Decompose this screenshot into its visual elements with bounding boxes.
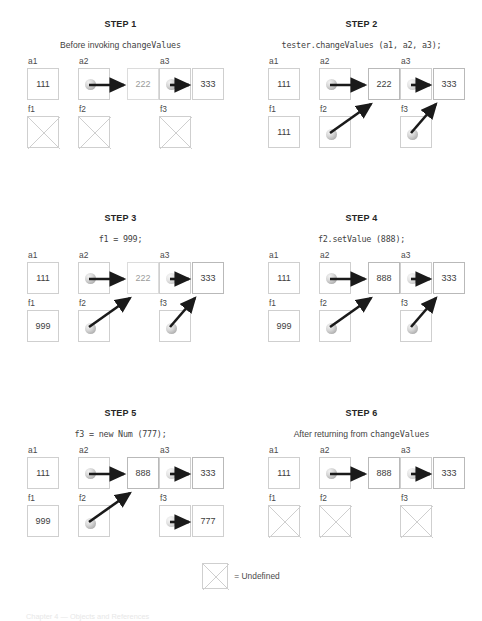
reference-ball-icon bbox=[166, 273, 177, 284]
box-a3-value: 333 bbox=[193, 69, 223, 99]
undefined-cross-icon bbox=[320, 506, 352, 538]
box-a1-value: 111 bbox=[269, 263, 299, 293]
box-f1-undefined bbox=[27, 116, 59, 148]
reference-ball-icon bbox=[166, 468, 177, 479]
box-f2-ref bbox=[319, 310, 351, 342]
box-f2-undefined bbox=[78, 116, 110, 148]
label-f1: f1 bbox=[269, 493, 276, 503]
panel-title: STEP 2 bbox=[241, 18, 482, 30]
box-a2-object: 888 bbox=[368, 262, 400, 294]
label-a2: a2 bbox=[79, 56, 88, 66]
diagram-step-4: a1 a2 a3 111 888 333 f1 f2 f3 999 bbox=[241, 250, 482, 354]
box-f2-ref bbox=[319, 116, 351, 148]
box-a1: 111 bbox=[268, 262, 300, 294]
box-a3-value: 333 bbox=[193, 458, 223, 488]
box-f1-value: 999 bbox=[28, 506, 58, 536]
label-a1: a1 bbox=[269, 445, 278, 455]
undefined-cross-icon bbox=[203, 564, 229, 590]
caption-plain: Before invoking bbox=[60, 40, 122, 50]
box-a3-value: 333 bbox=[193, 263, 223, 293]
diagram-step-2: a1 a2 a3 111 222 333 f1 f2 f3 111 bbox=[241, 56, 482, 160]
box-a2-value: 888 bbox=[369, 263, 399, 293]
label-a3: a3 bbox=[160, 445, 169, 455]
box-f1: 999 bbox=[27, 505, 59, 537]
caption-plain: After returning from bbox=[294, 429, 370, 439]
label-f2: f2 bbox=[79, 493, 86, 503]
box-a2-value: 222 bbox=[128, 263, 158, 293]
label-f1: f1 bbox=[269, 104, 276, 114]
box-a3-ref bbox=[400, 68, 432, 100]
label-f2: f2 bbox=[79, 298, 86, 308]
label-a1: a1 bbox=[269, 56, 278, 66]
undefined-cross-icon bbox=[401, 506, 433, 538]
box-a2-ref bbox=[78, 262, 110, 294]
box-f2-ref bbox=[78, 505, 110, 537]
box-a1: 111 bbox=[268, 457, 300, 489]
reference-ball-icon bbox=[85, 518, 96, 529]
box-f3-ref bbox=[400, 116, 432, 148]
panel-step-5: STEP 5 f3 = new Num (777); a1 a2 a3 111 … bbox=[0, 407, 241, 549]
box-f3-ref bbox=[400, 310, 432, 342]
box-f2-undefined bbox=[319, 505, 351, 537]
label-f3: f3 bbox=[401, 104, 408, 114]
box-a3-value: 333 bbox=[434, 69, 464, 99]
label-f3: f3 bbox=[160, 298, 167, 308]
panel-step-2: STEP 2 tester.changeValues (a1, a2, a3);… bbox=[241, 18, 482, 160]
label-a2: a2 bbox=[320, 445, 329, 455]
label-a3: a3 bbox=[160, 250, 169, 260]
panel-title: STEP 6 bbox=[241, 407, 482, 419]
undefined-cross-icon bbox=[79, 117, 111, 149]
reference-ball-icon bbox=[407, 79, 418, 90]
panel-title: STEP 4 bbox=[241, 212, 482, 224]
footer-text: Chapter 4 — Objects and References bbox=[0, 612, 482, 621]
box-a1: 111 bbox=[27, 68, 59, 100]
reference-ball-icon bbox=[407, 129, 418, 140]
box-a1-value: 111 bbox=[269, 69, 299, 99]
reference-ball-icon bbox=[166, 79, 177, 90]
panel-step-1: STEP 1 Before invoking changeValues a1 a… bbox=[0, 18, 241, 160]
box-a3-ref bbox=[400, 457, 432, 489]
box-a1: 111 bbox=[27, 262, 59, 294]
label-a2: a2 bbox=[320, 56, 329, 66]
legend-label: = Undefined bbox=[234, 571, 279, 581]
reference-ball-icon bbox=[326, 468, 337, 479]
label-a1: a1 bbox=[28, 56, 37, 66]
box-a1: 111 bbox=[27, 457, 59, 489]
panel-title: STEP 1 bbox=[0, 18, 241, 30]
panel-step-4: STEP 4 f2.setValue (888); a1 a2 a3 111 8… bbox=[241, 212, 482, 354]
label-a2: a2 bbox=[79, 445, 88, 455]
label-a1: a1 bbox=[269, 250, 278, 260]
reference-ball-icon bbox=[407, 323, 418, 334]
box-a2-value: 222 bbox=[369, 69, 399, 99]
box-a3-object: 333 bbox=[192, 262, 224, 294]
reference-ball-icon bbox=[326, 323, 337, 334]
box-a3-ref bbox=[159, 457, 191, 489]
box-f1: 999 bbox=[268, 310, 300, 342]
label-f2: f2 bbox=[79, 104, 86, 114]
label-a2: a2 bbox=[320, 250, 329, 260]
caption-mono: changeValues bbox=[370, 429, 429, 439]
label-a1: a1 bbox=[28, 250, 37, 260]
box-f3-ref bbox=[159, 505, 191, 537]
reference-ball-icon bbox=[166, 516, 177, 527]
reference-ball-icon bbox=[85, 323, 96, 334]
box-a3-object: 333 bbox=[433, 68, 465, 100]
diagram-step-1: a1 a2 a3 111 222 333 f1 f2 f3 bbox=[0, 56, 241, 160]
box-a2-ref bbox=[319, 262, 351, 294]
box-a3-ref bbox=[159, 262, 191, 294]
reference-ball-icon bbox=[326, 129, 337, 140]
box-f2-ref bbox=[78, 310, 110, 342]
box-f3-new-value: 777 bbox=[193, 506, 223, 536]
label-f1: f1 bbox=[28, 298, 35, 308]
label-f3: f3 bbox=[160, 104, 167, 114]
box-f1-undefined bbox=[268, 505, 300, 537]
diagram-step-6: a1 a2 a3 111 888 333 f1 f2 f3 bbox=[241, 445, 482, 549]
box-a2-ref bbox=[319, 68, 351, 100]
box-a1-value: 111 bbox=[28, 263, 58, 293]
box-a3-object: 333 bbox=[192, 68, 224, 100]
label-a1: a1 bbox=[28, 445, 37, 455]
box-f3-undefined bbox=[400, 505, 432, 537]
panel-caption: Before invoking changeValues bbox=[0, 38, 241, 52]
diagram-step-3: a1 a2 a3 111 222 333 f1 f2 f3 999 bbox=[0, 250, 241, 354]
undefined-cross-icon bbox=[160, 117, 192, 149]
